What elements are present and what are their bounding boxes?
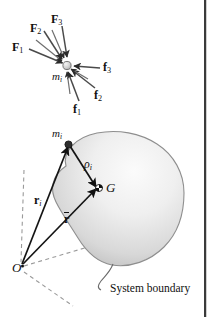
center-of-mass-marker [96, 185, 103, 192]
figure-canvas [0, 0, 211, 317]
force-arrow-extra-c [71, 69, 88, 79]
label-force-f1: f1 [73, 103, 81, 117]
label-force-F2: F2 [30, 22, 41, 36]
label-force-F3: F3 [51, 13, 62, 27]
force-arrow-F2 [44, 31, 62, 59]
axis-dashed-vertical [21, 170, 24, 262]
force-arrow-f2 [72, 70, 95, 88]
label-system-boundary: System boundary [110, 283, 190, 295]
label-force-f3: f3 [103, 61, 111, 75]
axis-dashed-upper [24, 247, 88, 266]
label-vector-r-bar: r [64, 212, 69, 225]
label-particle-mi-upper: mi [52, 71, 62, 84]
force-arrow-F3 [62, 26, 67, 57]
label-particle-mi-lower: mi [52, 128, 62, 141]
force-arrow-f3 [74, 66, 100, 68]
page-edge-rule-soft [206, 0, 207, 317]
origin-point-O [21, 265, 24, 268]
label-origin-O: O [12, 261, 21, 274]
system-boundary-blob [53, 131, 184, 265]
axis-dashed-lower [24, 272, 73, 306]
label-vector-rho-i: ρi [84, 158, 92, 172]
force-arrow-f1 [68, 72, 79, 101]
upper-force-arrows [29, 26, 100, 101]
label-force-F1: F1 [12, 41, 23, 55]
label-center-of-mass-G: G [106, 181, 115, 194]
particle-node-upper [63, 61, 71, 69]
particle-node-lower [65, 141, 72, 148]
figure-root: F1 F2 F3 f3 f2 f1 mi mi ρi G ri r O Syst… [0, 0, 211, 317]
label-force-f2: f2 [94, 89, 102, 103]
label-vector-r-i: ri [34, 194, 42, 208]
